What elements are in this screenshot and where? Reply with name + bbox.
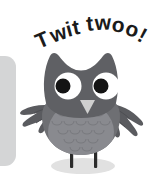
- speech-letter: w: [93, 10, 112, 34]
- left-panel-edge: [0, 56, 16, 166]
- owl-illustration-svg: T w i t t w o o ! Twit twoo!: [0, 0, 162, 177]
- owl-illustration-scene: T w i t t w o o ! Twit twoo!: [0, 0, 162, 177]
- eye-right: [93, 73, 120, 100]
- owl-shadow: [51, 158, 115, 174]
- eye-left: [55, 73, 82, 100]
